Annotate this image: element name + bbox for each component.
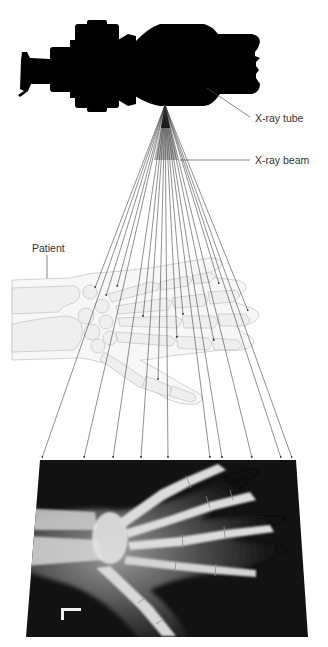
- label-xray-beam: X-ray beam: [255, 154, 309, 166]
- xray-tube-silhouette: [18, 20, 260, 112]
- label-xray-tube: X-ray tube: [255, 112, 303, 124]
- radiograph-film: [20, 460, 308, 640]
- patient-hand: [12, 258, 259, 404]
- label-patient: Patient: [32, 242, 65, 254]
- diagram-canvas: [0, 0, 328, 647]
- xray-diagram: X-ray tube X-ray beam Patient: [0, 0, 328, 647]
